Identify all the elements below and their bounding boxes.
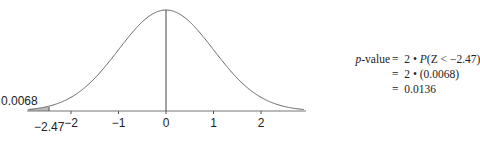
tail-area-label: 0.0068 [1, 94, 38, 108]
z-value-label: −2.47 [34, 120, 65, 134]
x-tick-label: 0 [163, 116, 170, 130]
formula-result: 0.0136 [404, 83, 436, 95]
x-tick-label: 2 [258, 116, 265, 130]
equals: = [392, 53, 399, 65]
x-tick-label: 1 [210, 116, 217, 130]
x-ticks: −2−1012 [64, 111, 265, 130]
prob-symbol: P [420, 53, 427, 65]
formula-step-2: 2 • (0.0068) [404, 68, 459, 80]
x-tick-label: −2 [64, 116, 78, 130]
equals: = [392, 83, 399, 95]
value-word: -value [361, 53, 390, 65]
normal-curve-chart: −2−1012 0.0068 −2.47 [0, 0, 320, 153]
x-tick-label: −1 [112, 116, 126, 130]
factor: 2 • [404, 53, 420, 65]
equals: = [392, 68, 399, 80]
prob-expr: (Z < −2.47) [427, 53, 480, 65]
